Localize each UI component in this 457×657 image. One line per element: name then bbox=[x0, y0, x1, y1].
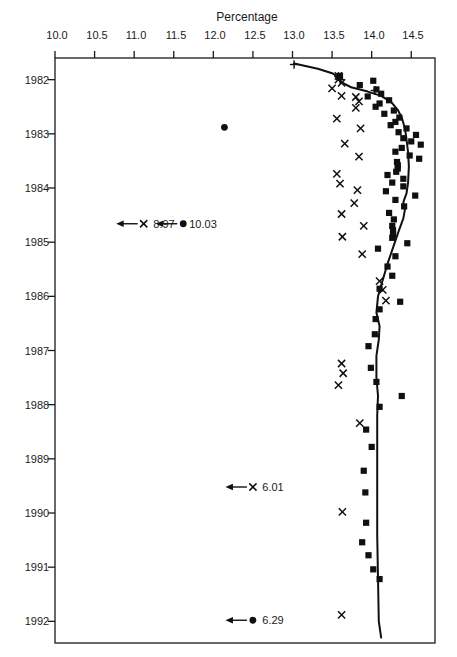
datapoint-square-marker bbox=[365, 552, 371, 558]
datapoint-square-marker bbox=[400, 176, 406, 182]
y-tick-label-14.5: 14.5 bbox=[398, 29, 428, 41]
annotation-value-6.29: 6.29 bbox=[251, 614, 295, 626]
datapoint-square-marker bbox=[395, 129, 401, 135]
datapoint-square-marker bbox=[408, 138, 414, 144]
datapoint-square-marker bbox=[373, 316, 379, 322]
x-tick-label-1989: 1989 bbox=[21, 453, 53, 465]
datapoint-square-marker bbox=[392, 253, 398, 259]
x-tick-label-1983: 1983 bbox=[21, 128, 53, 140]
x-tick-label-1990: 1990 bbox=[21, 507, 53, 519]
datapoint-square-marker bbox=[365, 343, 371, 349]
datapoint-square-marker bbox=[381, 111, 387, 117]
datapoint-square-marker bbox=[376, 306, 382, 312]
datapoint-square-marker bbox=[363, 520, 369, 526]
datapoint-square-marker bbox=[370, 566, 376, 572]
x-tick-label-1988: 1988 bbox=[21, 399, 53, 411]
datapoint-square-marker bbox=[391, 107, 397, 113]
datapoint-square-marker bbox=[359, 539, 365, 545]
y-tick-label-13.0: 13.0 bbox=[280, 29, 310, 41]
x-tick-label-1992: 1992 bbox=[21, 615, 53, 627]
x-tick-label-1982: 1982 bbox=[21, 74, 53, 86]
datapoint-square-marker bbox=[389, 273, 395, 279]
datapoint-square-marker bbox=[357, 82, 363, 88]
y-tick-label-14.0: 14.0 bbox=[359, 29, 389, 41]
scatter-plot-figure: 1982198319841985198619871988198919901991… bbox=[0, 0, 457, 657]
datapoint-square-marker bbox=[384, 172, 390, 178]
series-isolated-circle bbox=[221, 124, 228, 131]
annotation-value-8.97: 8.97 bbox=[142, 218, 186, 230]
datapoint-square-marker bbox=[370, 78, 376, 84]
datapoint-square-marker bbox=[386, 97, 392, 103]
y-tick-label-11.5: 11.5 bbox=[161, 29, 191, 41]
datapoint-square-marker bbox=[361, 468, 367, 474]
datapoint-square-marker bbox=[373, 379, 379, 385]
datapoint-square-marker bbox=[399, 145, 405, 151]
datapoint-square-marker bbox=[365, 93, 371, 99]
y-axis-title: Percentage bbox=[202, 10, 292, 24]
x-tick-label-1991: 1991 bbox=[21, 561, 53, 573]
datapoint-square-marker bbox=[418, 142, 424, 148]
datapoint-square-marker bbox=[373, 104, 379, 110]
datapoint-square-marker bbox=[386, 210, 392, 216]
datapoint-square-marker bbox=[416, 156, 422, 162]
datapoint-square-marker bbox=[393, 169, 399, 175]
datapoint-square-marker bbox=[389, 235, 395, 241]
datapoint-square-marker bbox=[383, 188, 389, 194]
datapoint-square-marker bbox=[375, 246, 381, 252]
x-tick-label-1984: 1984 bbox=[21, 182, 53, 194]
datapoint-square-marker bbox=[399, 393, 405, 399]
y-tick-label-12.0: 12.0 bbox=[200, 29, 230, 41]
datapoint-square-marker bbox=[407, 152, 413, 158]
datapoint-square-marker bbox=[400, 135, 406, 141]
y-tick-label-10.5: 10.5 bbox=[82, 29, 112, 41]
datapoint-square-marker bbox=[412, 192, 418, 198]
datapoint-square-marker bbox=[401, 203, 407, 209]
datapoint-square-marker bbox=[376, 404, 382, 410]
datapoint-square-marker bbox=[388, 122, 394, 128]
annotation-value-6.01: 6.01 bbox=[251, 481, 295, 493]
x-tick-label-1986: 1986 bbox=[21, 290, 53, 302]
datapoint-square-marker bbox=[392, 197, 398, 203]
datapoint-square-marker bbox=[397, 299, 403, 305]
datapoint-square-marker bbox=[404, 240, 410, 246]
datapoint-square-marker bbox=[369, 444, 375, 450]
datapoint-square-marker bbox=[372, 331, 378, 337]
datapoint-circle-marker bbox=[221, 124, 228, 131]
datapoint-square-marker bbox=[400, 183, 406, 189]
datapoint-square-marker bbox=[389, 179, 395, 185]
y-tick-label-13.5: 13.5 bbox=[319, 29, 349, 41]
y-tick-label-10.0: 10.0 bbox=[42, 29, 72, 41]
datapoint-square-marker bbox=[362, 489, 368, 495]
datapoint-square-marker bbox=[392, 149, 398, 155]
datapoint-square-marker bbox=[384, 263, 390, 269]
y-tick-label-11.0: 11.0 bbox=[121, 29, 151, 41]
datapoint-square-marker bbox=[403, 125, 409, 131]
plot-canvas bbox=[0, 0, 457, 657]
datapoint-square-marker bbox=[413, 132, 419, 138]
x-tick-label-1985: 1985 bbox=[21, 236, 53, 248]
datapoint-square-marker bbox=[378, 91, 384, 97]
rotated-figure-stage: 1982198319841985198619871988198919901991… bbox=[0, 0, 457, 657]
datapoint-square-marker bbox=[368, 365, 374, 371]
y-tick-label-12.5: 12.5 bbox=[240, 29, 270, 41]
datapoint-square-marker bbox=[363, 426, 369, 432]
x-tick-label-1987: 1987 bbox=[21, 345, 53, 357]
datapoint-square-marker bbox=[391, 216, 397, 222]
datapoint-square-marker bbox=[376, 576, 382, 582]
annotation-value-10.03: 10.03 bbox=[181, 218, 225, 230]
